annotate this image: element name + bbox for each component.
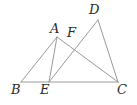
geometry-figure: D A F B E C [0,0,137,105]
vertex-label-B: B [11,83,21,96]
vertex-label-C: C [117,83,127,96]
vertex-label-D: D [89,3,99,16]
segment-BA [21,37,57,82]
vertex-label-E: E [40,83,50,96]
segment-DC [98,20,118,82]
vertex-label-F: F [67,26,76,39]
vertex-label-A: A [50,22,59,35]
segment-AE [49,37,57,82]
